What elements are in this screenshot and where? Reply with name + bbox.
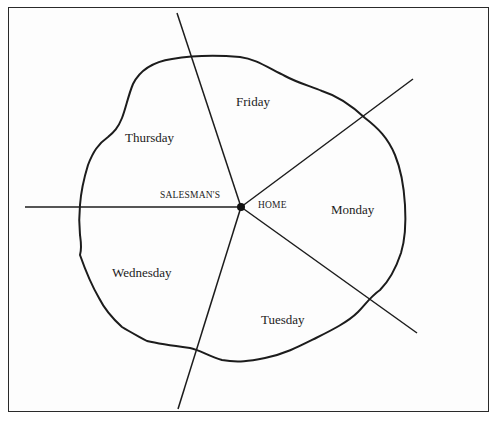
region-label-friday: Friday [236,95,270,108]
region-label-thursday: Thursday [125,131,174,144]
ray-bottom [178,207,241,409]
region-label-tuesday: Tuesday [261,313,305,326]
center-label-right: HOME [258,201,287,211]
region-label-monday: Monday [331,203,374,216]
region-label-wednesday: Wednesday [112,266,172,279]
center-label-left: SALESMAN'S [160,191,220,201]
ray-top [177,13,241,207]
territory-diagram [0,0,494,422]
home-point-icon [237,203,245,211]
